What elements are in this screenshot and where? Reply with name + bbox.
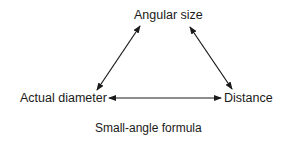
node-actual-diameter: Actual diameter	[20, 92, 107, 105]
diagram-caption: Small-angle formula	[95, 122, 202, 134]
node-distance: Distance	[224, 92, 273, 105]
arrow-angular-to-distance	[190, 27, 232, 89]
arrow-diameter-to-angular	[97, 26, 140, 90]
node-angular-size: Angular size	[134, 9, 203, 22]
